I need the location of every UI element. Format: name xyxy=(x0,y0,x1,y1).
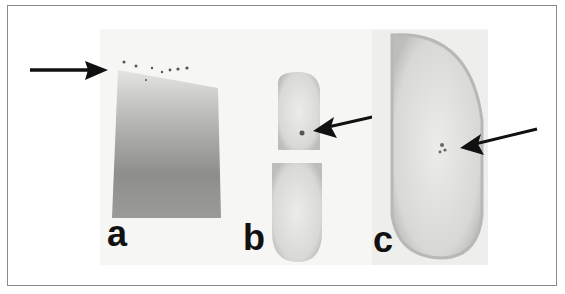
smear-lane xyxy=(112,70,221,218)
panel-label-a: a xyxy=(107,216,127,252)
stain-spot-b xyxy=(300,131,305,136)
arrow-a-head xyxy=(85,61,108,80)
seed-half-upper xyxy=(278,72,320,150)
figure-graphics xyxy=(0,0,565,294)
panel-a xyxy=(30,61,221,219)
seed-half-lower xyxy=(272,163,322,262)
panel-label-b: b xyxy=(243,220,265,256)
panel-c xyxy=(372,30,537,265)
panel-label-c: c xyxy=(373,222,393,258)
